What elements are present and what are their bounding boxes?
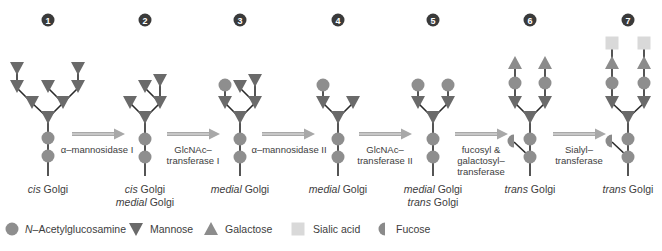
stage-badge-7: 7 xyxy=(622,14,635,27)
oligosaccharide-stage-4 xyxy=(316,79,360,177)
svg-text:transferase I: transferase I xyxy=(167,155,220,166)
location-label-3: medial Golgi xyxy=(211,183,269,195)
legend: N–Acetylglucosamine Mannose Galactose Si… xyxy=(6,222,431,236)
svg-text:Galactose: Galactose xyxy=(225,223,272,235)
galactose-icon xyxy=(538,56,552,69)
sialic-acid-icon xyxy=(292,223,305,236)
mannose-icon xyxy=(426,111,440,124)
mannose-icon xyxy=(138,80,152,93)
mannose-icon xyxy=(523,111,537,124)
galactose-icon xyxy=(637,56,651,69)
legend-item-galactose: Galactose xyxy=(204,222,272,235)
stage-badge-3: 3 xyxy=(234,14,247,27)
location-label-1: cis Golgi xyxy=(28,183,68,195)
stage-badges: 1 2 3 4 5 6 7 xyxy=(42,14,635,27)
glcnac-icon xyxy=(139,133,152,146)
glcnac-icon xyxy=(427,133,440,146)
location-label-6: trans Golgi xyxy=(505,183,556,195)
oligosaccharide-stage-2 xyxy=(123,74,167,176)
mannose-icon xyxy=(248,74,262,87)
arrow-right-icon xyxy=(359,129,412,140)
arrow-right-icon xyxy=(262,129,315,140)
glcnac-icon xyxy=(332,151,345,164)
location-label-5b: trans Golgi xyxy=(408,196,459,208)
svg-text:α–mannosidase I: α–mannosidase I xyxy=(61,144,134,155)
glcnac-icon xyxy=(638,77,651,90)
glcnac-icon xyxy=(524,151,537,164)
arrow-right-icon xyxy=(72,129,125,140)
oligosaccharide-stage-5 xyxy=(411,79,455,177)
legend-item-fucose: Fucose xyxy=(379,223,431,236)
glcnac-icon xyxy=(234,151,247,164)
enzyme-step-3: α–mannosidase II xyxy=(251,129,326,156)
glcnac-icon xyxy=(606,77,619,90)
location-label-2b: medial Golgi xyxy=(116,196,174,208)
stage-badge-5: 5 xyxy=(427,14,440,27)
arrow-right-icon xyxy=(553,129,606,140)
mannose-icon xyxy=(621,111,635,124)
enzyme-step-6: Sialyl– transferase xyxy=(553,129,606,167)
legend-item-mannose: Mannose xyxy=(129,223,193,236)
galactose-icon xyxy=(508,56,522,69)
svg-text:1: 1 xyxy=(45,16,50,26)
mannose-icon xyxy=(233,80,247,93)
svg-text:transferase: transferase xyxy=(457,166,505,177)
mannose-icon xyxy=(10,80,24,93)
galactose-icon xyxy=(605,56,619,69)
oligosaccharide-stage-3 xyxy=(218,74,262,176)
glcnac-icon xyxy=(332,133,345,146)
mannose-icon xyxy=(129,223,143,236)
glcnac-icon xyxy=(234,133,247,146)
enzyme-step-4: GlcNAc– transferase II xyxy=(357,129,412,167)
galactose-icon xyxy=(204,222,218,235)
glcnac-icon xyxy=(219,79,232,92)
glcnac-icon xyxy=(524,133,537,146)
location-label-7: trans Golgi xyxy=(603,183,654,195)
mannose-icon xyxy=(138,111,152,124)
glycosylation-pathway-diagram: 1 2 3 4 5 6 7 xyxy=(0,0,662,251)
svg-text:6: 6 xyxy=(527,16,532,26)
svg-text:7: 7 xyxy=(625,16,630,26)
glcnac-icon xyxy=(6,223,19,236)
svg-text:Sialyl–: Sialyl– xyxy=(565,144,594,155)
glcnac-icon xyxy=(622,133,635,146)
svg-text:α–mannosidase II: α–mannosidase II xyxy=(251,144,326,155)
location-labels: cis Golgi cis Golgi medial Golgi medial … xyxy=(28,183,654,208)
legend-item-sialic-acid: Sialic acid xyxy=(292,223,361,236)
location-label-2a: cis Golgi xyxy=(125,183,165,195)
svg-text:5: 5 xyxy=(430,16,435,26)
svg-text:fucosyl &: fucosyl & xyxy=(462,144,501,155)
enzyme-step-5: fucosyl & galactosyl– transferase xyxy=(455,129,508,178)
enzyme-step-1: α–mannosidase I xyxy=(61,129,134,156)
svg-text:GlcNAc–: GlcNAc– xyxy=(174,144,212,155)
legend-item-glcnac: N–Acetylglucosamine xyxy=(6,223,127,236)
stage-badge-2: 2 xyxy=(139,14,152,27)
svg-text:transferase: transferase xyxy=(555,155,603,166)
svg-text:3: 3 xyxy=(237,16,242,26)
enzyme-step-2: GlcNAc– transferase I xyxy=(167,129,220,167)
oligosaccharide-stage-1 xyxy=(10,62,85,176)
svg-text:GlcNAc–: GlcNAc– xyxy=(366,144,404,155)
mannose-icon xyxy=(153,74,167,87)
fucose-icon xyxy=(508,135,515,148)
oligosaccharide-stage-7 xyxy=(605,37,651,177)
mannose-icon xyxy=(233,111,247,124)
stage-badge-1: 1 xyxy=(42,14,55,27)
mannose-icon xyxy=(10,62,24,75)
svg-text:Fucose: Fucose xyxy=(396,223,431,235)
svg-text:2: 2 xyxy=(142,16,147,26)
arrow-right-icon xyxy=(455,129,508,140)
mannose-icon xyxy=(71,80,85,93)
glcnac-icon xyxy=(622,151,635,164)
mannose-icon xyxy=(41,80,55,93)
sialic-acid-icon xyxy=(638,37,651,50)
mannose-icon xyxy=(331,111,345,124)
location-label-4: medial Golgi xyxy=(309,183,367,195)
glcnac-icon xyxy=(412,79,425,92)
sialic-acid-icon xyxy=(606,37,619,50)
fucose-icon xyxy=(606,135,613,148)
stage-badge-4: 4 xyxy=(332,14,345,27)
stage-badge-6: 6 xyxy=(524,14,537,27)
svg-text:galactosyl–: galactosyl– xyxy=(457,155,505,166)
glcnac-icon xyxy=(42,132,55,145)
